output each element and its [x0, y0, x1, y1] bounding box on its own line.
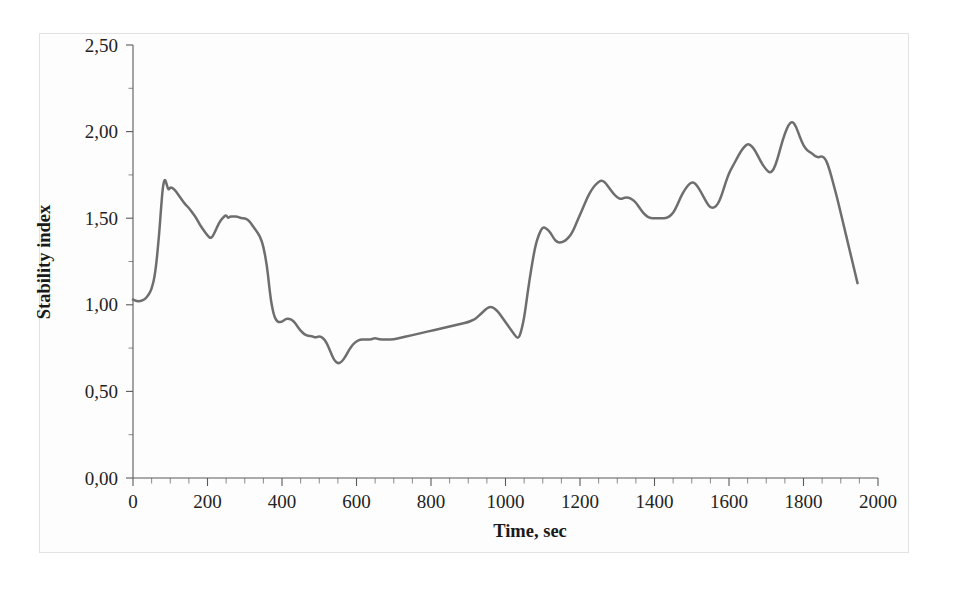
x-tick-label: 1600	[710, 491, 748, 512]
x-tick-label: 2000	[859, 491, 897, 512]
y-tick-label: 1,50	[85, 208, 118, 229]
x-tick-label: 600	[342, 491, 371, 512]
x-tick-label: 1800	[785, 491, 823, 512]
x-tick-label: 0	[128, 491, 138, 512]
x-tick-label: 200	[193, 491, 222, 512]
figure-container: 0,000,501,001,502,002,50 020040060080010…	[0, 0, 953, 589]
x-axis-title: Time, sec	[493, 521, 567, 541]
y-axis-title: Stability index	[34, 204, 54, 319]
line-chart: 0,000,501,001,502,002,50 020040060080010…	[0, 0, 953, 589]
x-tick-label: 1000	[487, 491, 525, 512]
y-tick-label: 2,50	[85, 35, 118, 56]
data-series-stability-index	[133, 122, 858, 363]
y-tick-label: 1,00	[85, 294, 118, 315]
x-axis-tick-labels: 0200400600800100012001400160018002000	[128, 491, 897, 512]
y-axis-tick-labels: 0,000,501,001,502,002,50	[85, 35, 118, 489]
y-tick-label: 2,00	[85, 121, 118, 142]
y-tick-label: 0,50	[85, 381, 118, 402]
x-tick-label: 1400	[636, 491, 674, 512]
x-tick-label: 1200	[561, 491, 599, 512]
x-tick-label: 400	[268, 491, 297, 512]
y-axis-minor-ticks	[129, 88, 134, 434]
y-tick-label: 0,00	[85, 468, 118, 489]
x-tick-label: 800	[417, 491, 446, 512]
